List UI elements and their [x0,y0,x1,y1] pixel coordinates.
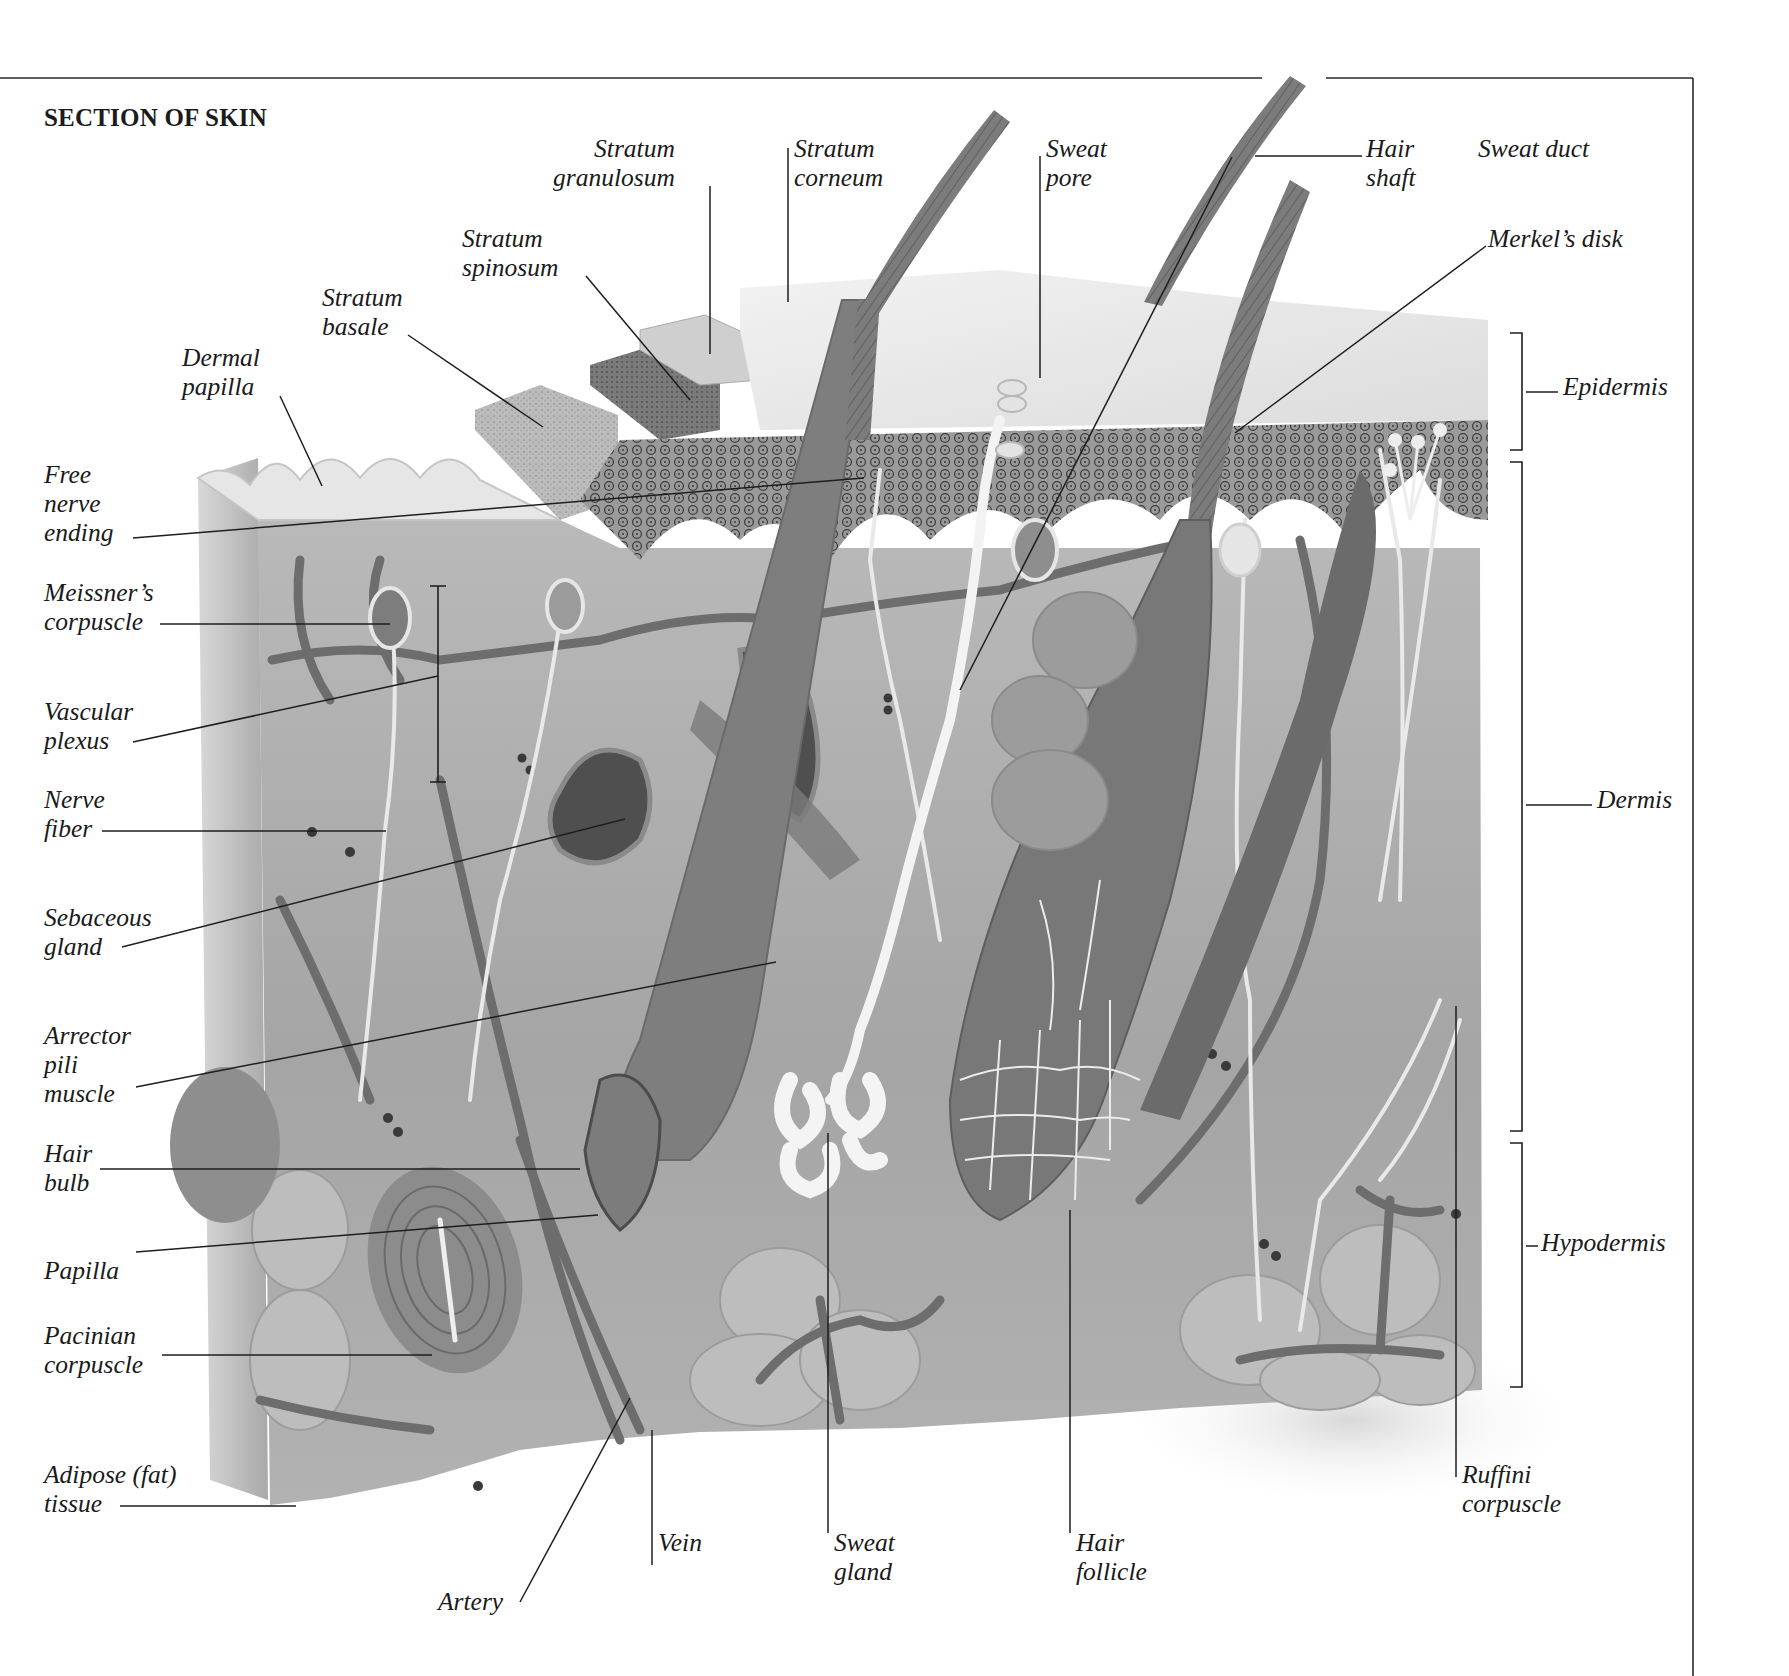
figure-title: SECTION OF SKIN [44,104,267,132]
label-sweat-gland: Sweat gland [834,1528,895,1586]
label-hair-shaft: Hair shaft [1366,134,1416,192]
label-epidermis: Epidermis [1563,372,1668,401]
label-nerve-fiber: Nerve fiber [44,785,105,843]
label-stratum-granulosum: Stratum granulosum [553,134,675,192]
hypodermis-bracket [1510,1143,1522,1387]
label-sebaceous-gland: Sebaceous gland [44,903,152,961]
label-ruffini-corpuscle: Ruffini corpuscle [1462,1460,1561,1518]
label-vein: Vein [658,1528,702,1557]
label-hair-bulb: Hair bulb [44,1139,92,1197]
label-adipose-tissue: Adipose (fat) tissue [44,1460,176,1518]
dermis-bracket [1510,462,1522,1131]
label-hypodermis: Hypodermis [1541,1228,1666,1257]
label-free-nerve-ending: Free nerve ending [44,460,113,547]
label-stratum-corneum: Stratum corneum [794,134,883,192]
label-artery: Artery [438,1587,503,1616]
label-arrector-pili-muscle: Arrector pili muscle [44,1021,131,1108]
label-vascular-plexus: Vascular plexus [44,697,133,755]
epidermis-bracket [1510,333,1522,450]
label-stratum-basale: Stratum basale [322,283,403,341]
label-sweat-duct: Sweat duct [1478,134,1589,163]
label-dermal-papilla: Dermal papilla [182,343,260,401]
label-hair-follicle: Hair follicle [1076,1528,1147,1586]
label-meissners-corpuscle: Meissner’s corpuscle [44,578,154,636]
label-pacinian-corpuscle: Pacinian corpuscle [44,1321,143,1379]
skin-section-figure: SECTION OF SKIN Stratum granulosumStratu… [0,0,1789,1676]
label-papilla: Papilla [44,1256,119,1285]
label-dermis: Dermis [1597,785,1672,814]
label-merkels-disk: Merkel’s disk [1488,224,1623,253]
label-sweat-pore: Sweat pore [1046,134,1107,192]
side-lobule [170,1067,280,1223]
label-stratum-spinosum: Stratum spinosum [462,224,558,282]
